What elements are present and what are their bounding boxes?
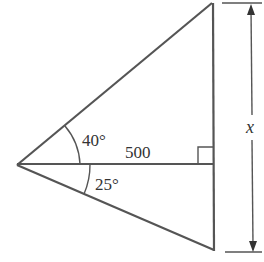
base-length-label: 500 (125, 143, 151, 162)
triangle-diagram: 40° 500 25° x (0, 0, 264, 262)
right-angle-marker (198, 147, 213, 164)
angle-label-40: 40° (82, 131, 106, 150)
angle-label-25: 25° (95, 175, 119, 194)
vertical-side (213, 3, 214, 251)
dimension-line-upper (251, 8, 252, 115)
angle-arc-40 (65, 126, 80, 164)
upper-hypotenuse (17, 3, 212, 165)
arrowhead-up-icon (247, 4, 255, 15)
dimension-line-lower (252, 140, 253, 246)
height-variable-label: x (245, 117, 254, 137)
angle-arc-25 (84, 164, 90, 194)
diagram-svg: 40° 500 25° x (0, 0, 264, 262)
arrowhead-down-icon (249, 241, 257, 252)
